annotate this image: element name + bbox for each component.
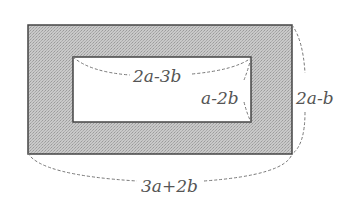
inner-width-label: 2a-3b [132, 66, 181, 86]
inner-height-label: a-2b [201, 88, 239, 108]
outer-height-brace [292, 25, 305, 73]
frame-diagram: 2a-3b a-2b 2a-b 3a+2b [0, 0, 359, 206]
outer-width-brace [28, 153, 137, 181]
outer-height-label: 2a-b [295, 88, 334, 108]
outer-width-label: 3a+2b [141, 176, 198, 196]
outer-width-brace-right [204, 154, 292, 181]
outer-height-brace-bottom [292, 112, 305, 154]
